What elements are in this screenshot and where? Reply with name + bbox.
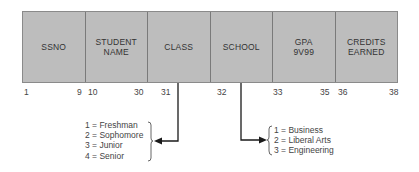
class-arrow <box>154 83 178 145</box>
class-code-item: 2 = Sophomore <box>85 130 143 140</box>
class-brace <box>148 122 153 161</box>
class-code-item: 3 = Junior <box>85 140 143 150</box>
school-code-item: 3 = Engineering <box>274 145 334 155</box>
school-code-item: 1 = Business <box>274 125 334 135</box>
class-codes-legend: 1 = Freshman 2 = Sophomore 3 = Junior 4 … <box>85 120 143 161</box>
school-brace <box>267 126 272 155</box>
connector-arrows <box>0 0 419 172</box>
class-code-item: 1 = Freshman <box>85 120 143 130</box>
class-code-item: 4 = Senior <box>85 151 143 161</box>
school-codes-legend: 1 = Business 2 = Liberal Arts 3 = Engine… <box>274 125 334 156</box>
school-code-item: 2 = Liberal Arts <box>274 135 334 145</box>
school-arrow <box>241 83 267 144</box>
